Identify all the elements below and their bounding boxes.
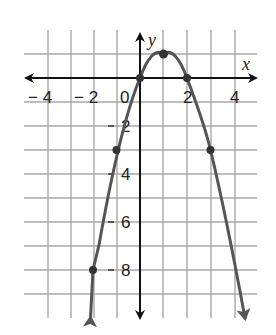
- x-tick-label: − 4: [28, 88, 52, 107]
- point-1-1: [159, 50, 168, 59]
- y-tick-label: 8: [121, 261, 130, 280]
- data-points: [89, 50, 215, 275]
- point-neg1-neg3: [113, 146, 121, 154]
- point-0-0: [136, 74, 144, 82]
- point-neg2-neg8: [89, 266, 97, 274]
- point-2-0: [183, 74, 191, 82]
- point-3-neg3: [207, 146, 215, 154]
- x-tick-label: 0: [120, 88, 129, 107]
- x-tick-label: 4: [230, 88, 239, 107]
- parabola-graph: x y − 4 − 2 0 2 4 2 4 6 8: [0, 0, 276, 335]
- x-tick-label: − 2: [74, 88, 98, 107]
- y-tick-label: 6: [121, 213, 130, 232]
- y-axis-label: y: [146, 30, 156, 50]
- y-tick-label: 4: [121, 165, 130, 184]
- x-axis-label: x: [241, 54, 250, 74]
- parabola-curve: [91, 52, 246, 318]
